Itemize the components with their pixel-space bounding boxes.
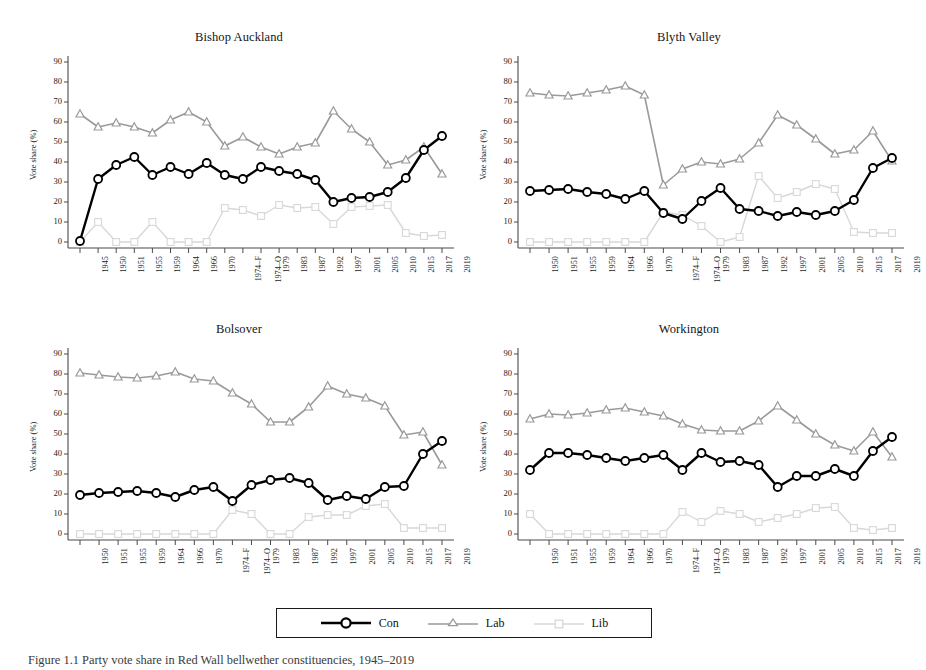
data-point-lib-1974-o: [240, 207, 247, 214]
data-point-con-1966: [621, 195, 629, 203]
data-point-lib-1992: [755, 173, 762, 180]
data-point-lib-1950: [527, 239, 534, 246]
data-point-con-2015: [850, 472, 858, 480]
legend-label-con: Con: [379, 616, 399, 631]
data-point-lab-1979: [697, 158, 705, 165]
data-point-lib-1970: [203, 239, 210, 246]
data-point-con-1945: [76, 237, 84, 245]
data-point-lab-2005: [812, 135, 820, 142]
data-point-con-1979: [697, 449, 705, 457]
series-lib-workington: [527, 504, 896, 538]
data-point-con-1997: [774, 212, 782, 220]
data-point-con-1974-f: [221, 171, 229, 179]
data-point-con-1970: [203, 159, 211, 167]
plot-area-bolsover: [14, 322, 464, 612]
data-point-con-1974-f: [659, 451, 667, 459]
data-point-con-1955: [564, 449, 572, 457]
data-point-con-2017: [869, 164, 877, 172]
data-point-lib-1959: [584, 531, 591, 538]
data-point-con-1964: [602, 454, 610, 462]
data-point-lib-1950: [527, 511, 534, 518]
data-point-lib-2005: [812, 505, 819, 512]
data-point-lib-1974-o: [229, 507, 236, 514]
legend-item-con[interactable]: Con: [320, 615, 399, 631]
data-point-lib-1970: [641, 531, 648, 538]
data-point-lab-1970: [203, 118, 211, 125]
data-point-con-1983: [267, 476, 275, 484]
data-point-con-2019: [438, 132, 446, 140]
data-point-con-1987: [736, 457, 744, 465]
data-point-lib-2005: [812, 181, 819, 188]
data-point-con-1950: [94, 175, 102, 183]
data-point-con-2015: [402, 174, 410, 182]
data-point-lib-2010: [831, 186, 838, 193]
data-point-lib-2001: [343, 512, 350, 519]
data-point-con-2005: [812, 472, 820, 480]
legend-swatch-lib-icon: [533, 615, 585, 631]
data-point-lib-1955: [565, 239, 572, 246]
data-point-lib-1950: [95, 219, 102, 226]
series-con-blyth-valley: [526, 154, 896, 223]
data-point-con-2019: [438, 437, 446, 445]
data-point-con-2005: [366, 193, 374, 201]
data-point-lab-2010: [831, 441, 839, 448]
data-point-lib-1974-o: [679, 509, 686, 516]
data-point-lab-1966: [185, 108, 193, 115]
data-point-lab-1945: [76, 110, 84, 117]
series-lib-bishop-auckland: [77, 202, 446, 246]
legend-item-lib[interactable]: Lib: [533, 615, 609, 631]
data-point-con-2001: [348, 194, 356, 202]
data-point-lib-1966: [172, 531, 179, 538]
data-point-con-1951: [112, 161, 120, 169]
data-point-con-1983: [275, 167, 283, 175]
data-point-lib-2010: [384, 202, 391, 209]
data-point-lib-1983: [276, 202, 283, 209]
data-point-lib-2017: [421, 233, 428, 240]
data-point-con-1950: [526, 187, 534, 195]
data-point-con-2005: [362, 495, 370, 503]
data-point-lib-1974-f: [210, 531, 217, 538]
data-point-con-1992: [311, 176, 319, 184]
data-point-lib-2017: [870, 527, 877, 534]
data-point-con-1974-f: [209, 483, 217, 491]
data-point-con-2015: [850, 196, 858, 204]
data-point-lib-2015: [850, 229, 857, 236]
data-point-lib-1997: [330, 221, 337, 228]
data-point-lib-1979: [258, 213, 265, 220]
data-point-con-1992: [755, 207, 763, 215]
data-point-con-2001: [343, 492, 351, 500]
data-point-con-1987: [286, 474, 294, 482]
series-lab-workington: [526, 402, 896, 460]
data-point-lib-1987: [736, 234, 743, 241]
data-point-lab-2017: [419, 428, 427, 435]
data-point-lab-2017: [869, 127, 877, 134]
data-point-con-2010: [831, 465, 839, 473]
data-point-con-1970: [190, 486, 198, 494]
data-point-lib-1983: [717, 508, 724, 515]
data-point-lib-1959: [134, 531, 141, 538]
data-point-lab-1966: [171, 368, 179, 375]
data-point-lib-1959: [584, 239, 591, 246]
data-point-lib-1951: [113, 239, 120, 246]
data-point-lib-1950: [77, 531, 84, 538]
data-point-lib-1964: [603, 531, 610, 538]
data-point-con-1970: [640, 454, 648, 462]
data-point-lab-1997: [329, 107, 337, 114]
data-point-lib-1979: [698, 223, 705, 230]
data-point-lib-1987: [286, 531, 293, 538]
plot-area-bishop-auckland: [14, 30, 464, 320]
data-point-lab-2001: [793, 416, 801, 423]
data-point-lib-1983: [267, 531, 274, 538]
data-point-lab-1997: [774, 402, 782, 409]
data-point-lib-1997: [774, 515, 781, 522]
data-point-con-1970: [640, 187, 648, 195]
data-point-lab-1950: [526, 89, 534, 96]
data-point-con-1974-o: [678, 466, 686, 474]
data-point-lib-1964: [167, 239, 174, 246]
legend-swatch-lab-icon: [427, 615, 479, 631]
data-point-lib-2001: [793, 189, 800, 196]
series-con-workington: [526, 433, 896, 491]
legend-item-lab[interactable]: Lab: [427, 615, 505, 631]
data-point-lib-1955: [115, 531, 122, 538]
data-point-lib-1974-f: [221, 205, 228, 212]
